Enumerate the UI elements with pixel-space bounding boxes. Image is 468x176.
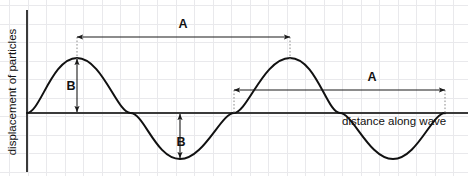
x-axis-label: distance along wave: [342, 115, 446, 127]
amplitude-crest-label: B: [66, 79, 75, 93]
wavelength-top-label: A: [178, 17, 187, 31]
amplitude-crest-annotation: B: [66, 59, 77, 112]
amplitude-trough-label: B: [176, 135, 185, 149]
wavelength-lower-annotation: A: [234, 70, 445, 115]
y-axis-label: displacement of particles: [6, 28, 18, 155]
wave-curve: [27, 58, 445, 159]
amplitude-trough-annotation: B: [176, 114, 185, 158]
wave-diagram-figure: A A B B distance along wave displacement…: [0, 0, 468, 176]
wavelength-top-annotation: A: [77, 17, 290, 60]
wavelength-lower-label: A: [367, 70, 376, 84]
